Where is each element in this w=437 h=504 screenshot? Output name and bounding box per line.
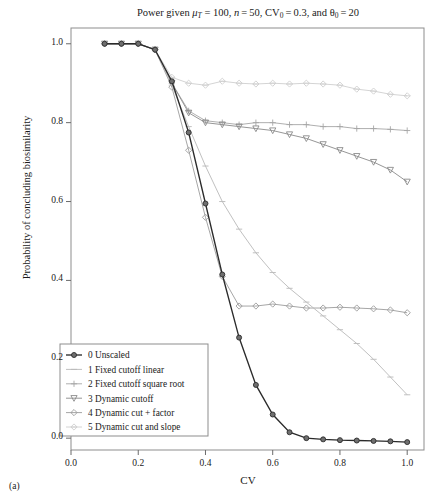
y-tick-label: 0.6	[37, 195, 63, 205]
data-point-marker	[388, 439, 393, 444]
x-tick-label: 0.6	[262, 458, 284, 468]
legend-label: 2 Fixed cutoff square root	[88, 379, 185, 389]
legend-label: 4 Dynamic cut + factor	[88, 408, 175, 418]
data-point-marker	[203, 201, 208, 206]
x-tick-label: 0.2	[127, 458, 149, 468]
series-5	[102, 41, 411, 99]
data-point-marker	[237, 335, 242, 340]
x-tick-label: 0.8	[329, 458, 351, 468]
data-point-marker	[321, 437, 326, 442]
data-point-marker	[405, 440, 410, 445]
data-point-marker	[270, 412, 275, 417]
y-tick-label: 0.2	[37, 352, 63, 362]
y-tick-label: 0.4	[37, 273, 63, 283]
data-point-marker	[102, 41, 107, 46]
y-tick-label: 0.0	[37, 431, 63, 441]
legend-label: 3 Dynamic cutoff	[88, 394, 154, 404]
series-3	[102, 41, 411, 185]
data-point-marker	[153, 47, 158, 52]
series-1	[102, 44, 411, 395]
data-point-marker	[371, 438, 376, 443]
legend-label: 0 Unscaled	[88, 350, 130, 360]
data-point-marker	[186, 130, 191, 135]
series-line	[105, 44, 408, 395]
series-4	[102, 41, 411, 316]
legend-label: 1 Fixed cutoff linear	[88, 365, 165, 375]
legend: 0 Unscaled1 Fixed cutoff linear2 Fixed c…	[60, 344, 208, 436]
x-tick-label: 0.4	[194, 458, 216, 468]
data-point-marker	[72, 353, 77, 358]
data-point-marker	[220, 272, 225, 277]
data-point-marker	[136, 41, 141, 46]
y-tick-label: 0.8	[37, 116, 63, 126]
data-point-marker	[287, 430, 292, 435]
data-point-marker	[337, 438, 342, 443]
data-point-marker	[253, 382, 258, 387]
series-line	[105, 44, 408, 96]
plot-area: 0 Unscaled1 Fixed cutoff linear2 Fixed c…	[0, 0, 437, 504]
x-tick-label: 0.0	[60, 458, 82, 468]
figure-panel: Power given μT = 100, n = 50, CV0 = 0.3,…	[0, 0, 437, 504]
x-tick-label: 1.0	[396, 458, 418, 468]
y-tick-label: 1.0	[37, 37, 63, 47]
data-point-marker	[169, 79, 174, 84]
data-point-marker	[304, 436, 309, 441]
data-point-marker	[404, 179, 410, 185]
data-point-marker	[354, 438, 359, 443]
legend-label: 5 Dynamic cut and slope	[88, 422, 180, 432]
data-point-marker	[119, 41, 124, 46]
series-line	[105, 44, 408, 182]
